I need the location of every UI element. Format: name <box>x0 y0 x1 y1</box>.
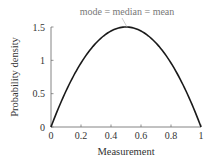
density-chart: 00.511.5 00.20.40.60.81 mode = median = … <box>0 0 215 161</box>
x-tick-label: 0.6 <box>135 130 148 141</box>
y-tick-label: 1 <box>40 55 45 66</box>
x-tick-label: 0.4 <box>105 130 118 141</box>
x-tick-label: 0 <box>49 130 54 141</box>
annotation-pointer <box>122 18 127 27</box>
x-tick-label: 1 <box>199 130 204 141</box>
x-tick-label: 0.2 <box>75 130 88 141</box>
y-tick-label: 0.5 <box>33 88 46 99</box>
x-tick-label: 0.8 <box>165 130 178 141</box>
y-tick-label: 0 <box>40 122 45 133</box>
y-axis-label: Probability density <box>9 36 20 116</box>
y-ticks: 00.511.5 <box>33 22 54 133</box>
x-axis-label: Measurement <box>97 146 154 157</box>
y-tick-label: 1.5 <box>33 22 46 33</box>
annotation-label: mode = median = mean <box>80 6 175 17</box>
density-curve <box>51 27 201 127</box>
